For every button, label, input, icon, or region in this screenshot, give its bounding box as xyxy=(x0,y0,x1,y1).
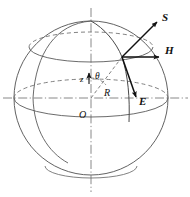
label-E: E xyxy=(138,95,146,107)
sphere-vector-diagram: z θ R O S H E xyxy=(0,0,190,197)
label-H: H xyxy=(164,44,174,56)
label-O: O xyxy=(79,109,86,120)
label-S: S xyxy=(162,11,168,23)
label-R: R xyxy=(103,87,110,98)
figure-background xyxy=(0,0,190,197)
label-z: z xyxy=(79,74,84,84)
label-theta: θ xyxy=(95,71,100,81)
